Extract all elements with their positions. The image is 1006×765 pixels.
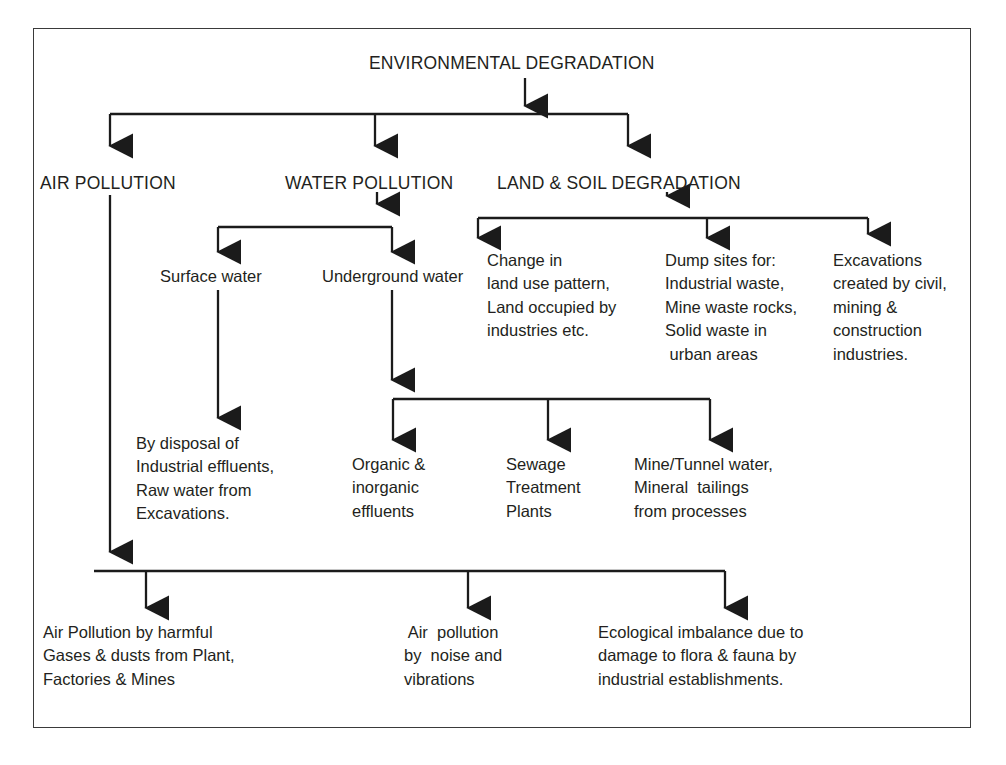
node-surface-water: Surface water xyxy=(160,266,262,288)
diagram-canvas: ENVIRONMENTAL DEGRADATION AIR POLLUTION … xyxy=(0,0,1006,765)
node-sewage-treatment-plants: Sewage Treatment Plants xyxy=(506,453,581,523)
node-change-in-land-use: Change in land use pattern, Land occupie… xyxy=(487,249,616,343)
node-organic-inorganic-effluents: Organic & inorganic effluents xyxy=(352,453,425,523)
node-air-pollution: AIR POLLUTION xyxy=(40,172,176,195)
node-mine-tunnel-water: Mine/Tunnel water, Mineral tailings from… xyxy=(634,453,773,523)
node-outcome-noise-vibrations: Air pollution by noise and vibrations xyxy=(404,621,502,691)
node-environmental-degradation: ENVIRONMENTAL DEGRADATION xyxy=(369,52,655,75)
node-water-pollution: WATER POLLUTION xyxy=(285,172,453,195)
node-excavations: Excavations created by civil, mining & c… xyxy=(833,249,947,366)
node-dump-sites: Dump sites for: Industrial waste, Mine w… xyxy=(665,249,797,366)
node-by-disposal: By disposal of Industrial effluents, Raw… xyxy=(136,432,274,526)
node-outcome-air-pollution: Air Pollution by harmful Gases & dusts f… xyxy=(43,621,235,691)
node-underground-water: Underground water xyxy=(322,266,463,288)
node-land-soil-degradation: LAND & SOIL DEGRADATION xyxy=(497,172,741,195)
node-outcome-ecological-imbalance: Ecological imbalance due to damage to fl… xyxy=(598,621,803,691)
